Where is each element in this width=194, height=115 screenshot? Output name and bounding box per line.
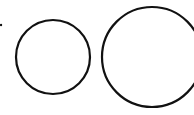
small-circle [16, 20, 90, 94]
diagram-canvas [0, 0, 194, 115]
small-dot [0, 24, 2, 26]
large-circle [102, 7, 194, 107]
